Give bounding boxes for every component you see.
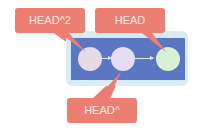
commit-node-2[interactable] xyxy=(111,47,135,71)
label-head1: HEAD^ xyxy=(67,98,137,123)
label-head2: HEAD^2 xyxy=(15,8,85,33)
label-head: HEAD xyxy=(95,8,165,33)
arrow-icon xyxy=(150,56,154,60)
commit-node-1[interactable] xyxy=(78,47,102,71)
commit-node-3[interactable] xyxy=(156,47,180,71)
